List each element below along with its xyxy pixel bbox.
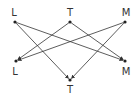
node-label-L_bot: L: [12, 67, 18, 77]
edge-T_top-to-M_bot: [71, 23, 123, 60]
node-label-M_bot: M: [122, 67, 131, 77]
node-dot-L_bot: [14, 59, 17, 62]
node-label-T_bot: T: [67, 85, 73, 95]
edge-T_top-to-L_bot: [18, 23, 69, 60]
node-label-M_top: M: [122, 8, 131, 18]
node-dot-M_top: [123, 20, 126, 23]
node-dot-T_bot: [68, 78, 71, 81]
node-label-L_top: L: [11, 8, 17, 18]
node-dot-M_bot: [123, 59, 126, 62]
edges-group: [16, 23, 124, 79]
node-label-T_top: T: [67, 8, 73, 18]
node-dot-T_top: [68, 20, 71, 23]
node-dot-L_top: [13, 20, 16, 23]
